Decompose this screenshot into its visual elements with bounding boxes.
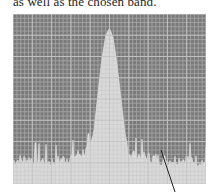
spectrum-display: [13, 14, 206, 184]
spectrum-plot: [13, 14, 206, 184]
caption-text: as well as the chosen band.: [13, 0, 157, 10]
